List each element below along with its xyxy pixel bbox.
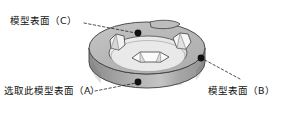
figure-screenshot: 模型表面（C） 选取此模型表面（A） 模型表面（B） [0, 0, 285, 114]
annotation-label-surface-b: 模型表面（B） [208, 85, 275, 96]
marker-dot-surface-a[interactable] [135, 79, 142, 86]
marker-dot-surface-c[interactable] [135, 30, 142, 37]
disc-body [89, 20, 205, 88]
annotation-label-surface-c: 模型表面（C） [10, 15, 77, 26]
marker-dot-surface-b[interactable] [198, 55, 205, 62]
leader-line-b [203, 59, 240, 79]
annotation-label-surface-a: 选取此模型表面（A） [4, 85, 101, 96]
patch-recess-floor [132, 52, 169, 62]
